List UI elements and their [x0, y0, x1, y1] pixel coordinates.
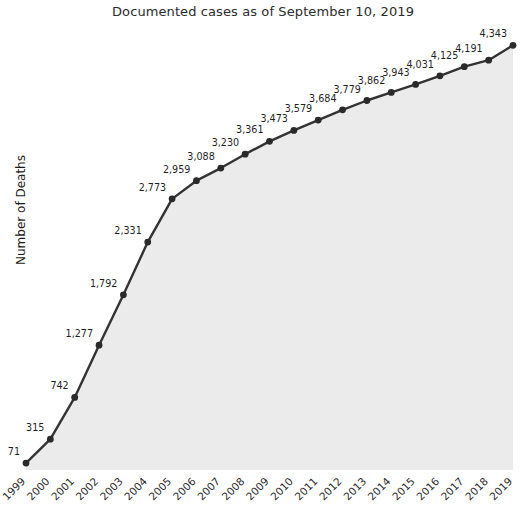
- line-chart: Documented cases as of September 10, 201…: [0, 0, 526, 509]
- x-axis-tick-label: 2016: [414, 475, 442, 503]
- data-point-label: 2,959: [163, 164, 190, 175]
- x-axis-tick-label: 2019: [487, 475, 514, 502]
- data-point-label: 4,191: [455, 43, 482, 54]
- data-point-label: 4,031: [406, 59, 433, 70]
- x-axis-tick-label: 2001: [49, 475, 76, 502]
- data-point-marker: [339, 106, 346, 113]
- data-point-label: 315: [26, 422, 44, 433]
- data-point-label: 742: [50, 380, 68, 391]
- x-axis-tick-label: 2008: [219, 475, 246, 502]
- x-axis-tick-label: 2010: [268, 475, 295, 502]
- data-point-marker: [510, 42, 517, 49]
- data-point-marker: [71, 394, 78, 401]
- x-axis-tick-label: 2009: [244, 475, 271, 502]
- data-point-marker: [485, 57, 492, 64]
- x-axis-tick-label: 2017: [438, 475, 465, 502]
- data-point-label: 2,773: [139, 182, 166, 193]
- data-point-label: 3,862: [358, 75, 385, 86]
- data-point-label: 3,684: [309, 93, 336, 104]
- data-point-marker: [47, 436, 54, 443]
- data-point-label: 3,230: [212, 137, 239, 148]
- data-point-marker: [169, 195, 176, 202]
- area-fill: [26, 45, 513, 470]
- data-point-marker: [120, 291, 127, 298]
- data-point-label: 71: [8, 446, 20, 457]
- x-axis-tick-label: 2007: [195, 475, 222, 502]
- x-axis-tick-labels: 1999200020012002200320042005200620072008…: [0, 475, 514, 503]
- data-point-marker: [266, 138, 273, 145]
- plot-area: 713157421,2771,7922,3312,7732,9593,0883,…: [0, 0, 526, 509]
- data-point-marker: [412, 81, 419, 88]
- data-point-label: 1,277: [66, 328, 93, 339]
- data-point-label: 1,792: [90, 278, 117, 289]
- data-point-marker: [388, 89, 395, 96]
- data-point-marker: [144, 239, 151, 246]
- data-point-marker: [193, 177, 200, 184]
- data-point-label: 2,331: [114, 225, 141, 236]
- data-point-marker: [315, 117, 322, 124]
- data-point-label: 3,779: [333, 84, 360, 95]
- data-point-label: 3,088: [187, 151, 214, 162]
- data-point-marker: [437, 72, 444, 79]
- data-point-marker: [23, 460, 30, 467]
- x-axis-tick-label: 2006: [170, 475, 198, 503]
- x-axis-tick-label: 2013: [341, 475, 368, 502]
- x-axis-tick-label: 2011: [292, 475, 319, 502]
- data-point-label: 4,125: [431, 50, 458, 61]
- data-point-label: 3,943: [382, 67, 409, 78]
- x-axis-tick-label: 2002: [73, 475, 100, 502]
- data-point-marker: [217, 165, 224, 172]
- x-axis-tick-label: 2012: [317, 475, 344, 502]
- data-point-marker: [242, 151, 249, 158]
- x-axis-tick-label: 2003: [97, 475, 124, 502]
- x-axis-tick-label: 1999: [0, 475, 27, 502]
- data-point-label: 3,361: [236, 124, 263, 135]
- x-axis-tick-label: 2005: [146, 475, 173, 502]
- x-axis-tick-label: 2018: [463, 475, 490, 502]
- data-point-marker: [96, 342, 103, 349]
- data-point-label: 4,343: [480, 28, 507, 39]
- data-point-label: 3,473: [260, 113, 287, 124]
- x-axis-tick-label: 2004: [122, 475, 150, 503]
- data-point-marker: [461, 63, 468, 70]
- x-axis-tick-label: 2014: [365, 475, 393, 503]
- x-axis-tick-label: 2015: [390, 475, 417, 502]
- data-point-marker: [364, 97, 371, 104]
- data-point-marker: [290, 127, 297, 134]
- x-axis-tick-label: 2000: [24, 475, 51, 502]
- data-point-label: 3,579: [285, 103, 312, 114]
